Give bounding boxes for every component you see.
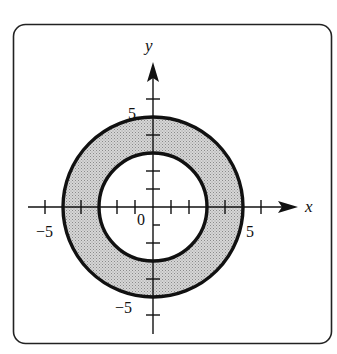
x-axis-label: x: [304, 197, 313, 216]
shaded-annulus-region: [0, 0, 337, 354]
y-axis-label: y: [143, 36, 153, 55]
x-tick-label-neg5: −5: [36, 223, 53, 240]
y-tick-label-neg5: −5: [115, 299, 132, 316]
x-tick-label-5: 5: [246, 223, 254, 240]
y-tick-label-5: 5: [128, 105, 136, 122]
annulus-graph-figure: y x 0 −5 5 5 −5: [0, 0, 337, 354]
origin-label: 0: [137, 211, 145, 228]
graph-svg: y x 0 −5 5 5 −5: [0, 0, 337, 354]
